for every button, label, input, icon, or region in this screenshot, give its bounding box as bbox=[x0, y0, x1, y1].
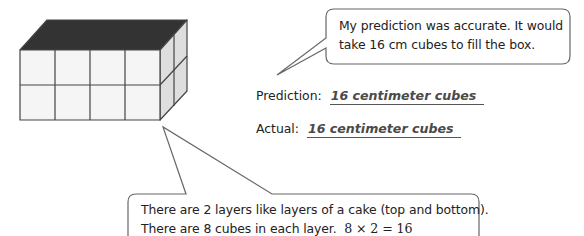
callout-bottom-text: There are 2 layers like layers of a cake… bbox=[141, 200, 489, 236]
cube-prism bbox=[20, 20, 187, 120]
prism-top-face bbox=[20, 20, 187, 50]
prediction-value: 16 centimeter cubes bbox=[330, 88, 485, 105]
actual-label: Actual: bbox=[256, 121, 299, 136]
prediction-row: Prediction: 16 centimeter cubes bbox=[256, 88, 484, 105]
callout-top-text: My prediction was accurate. It would tak… bbox=[339, 16, 563, 54]
equation: 8 × 2 = 16 bbox=[344, 221, 412, 236]
callout-top-line-1: My prediction was accurate. It would bbox=[339, 16, 563, 35]
actual-value: 16 centimeter cubes bbox=[307, 121, 462, 138]
prediction-label: Prediction: bbox=[256, 88, 322, 103]
callout-bottom-line-2: There are 8 cubes in each layer. 8 × 2 =… bbox=[141, 219, 489, 236]
callout-bottom-line-1: There are 2 layers like layers of a cake… bbox=[141, 200, 489, 219]
callout-top-line-2: take 16 cm cubes to fill the box. bbox=[339, 35, 563, 54]
actual-row: Actual: 16 centimeter cubes bbox=[256, 121, 461, 138]
